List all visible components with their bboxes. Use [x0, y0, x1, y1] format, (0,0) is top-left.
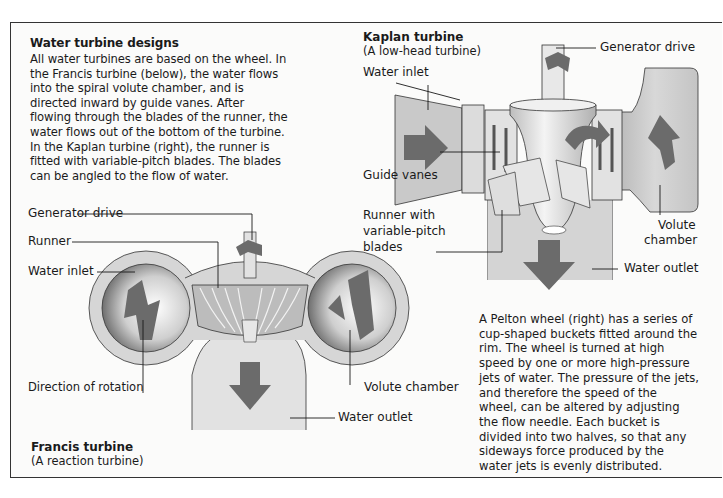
francis-label-generator-drive: Generator drive — [28, 206, 123, 220]
francis-label-direction-of-rotation: Direction of rotation — [28, 380, 143, 394]
kaplan-label-water-outlet: Water outlet — [624, 261, 698, 275]
intro-title: Water turbine designs — [30, 36, 179, 51]
kaplan-title: Kaplan turbine — [363, 30, 464, 44]
intro-line: water flows out of the bottom of the tur… — [30, 125, 288, 140]
kaplan-label-runner-1: Runner with — [363, 208, 435, 222]
intro-line: fitted with variable-pitch blades. The b… — [30, 154, 288, 169]
francis-label-water-outlet: Water outlet — [338, 410, 412, 424]
pelton-line: rim. The wheel is turned at high — [479, 341, 699, 356]
francis-subtitle: (A reaction turbine) — [31, 454, 143, 468]
pelton-line: wheel, can be altered by adjusting — [479, 400, 699, 415]
kaplan-turbine-drawing — [395, 45, 698, 290]
pelton-line: the flow needle. Each bucket is — [479, 415, 699, 430]
kaplan-label-guide-vanes: Guide vanes — [363, 168, 438, 182]
francis-label-water-inlet: Water inlet — [28, 264, 94, 278]
francis-label-runner: Runner — [28, 234, 71, 248]
intro-line: directed inward by guide vanes. After — [30, 96, 288, 111]
pelton-line: cup-shaped buckets fitted around the — [479, 327, 699, 342]
intro-line: the Francis turbine (below), the water f… — [30, 67, 288, 82]
kaplan-label-water-inlet: Water inlet — [363, 65, 429, 79]
pelton-paragraph: A Pelton wheel (right) has a series of c… — [479, 312, 699, 474]
francis-label-volute-chamber: Volute chamber — [364, 380, 459, 394]
pelton-line: speed by one or more high-pressure — [479, 356, 699, 371]
intro-line: All water turbines are based on the whee… — [30, 52, 288, 67]
intro-paragraph: All water turbines are based on the whee… — [30, 52, 288, 183]
kaplan-label-runner-2: variable-pitch — [363, 224, 446, 238]
kaplan-label-generator-drive: Generator drive — [600, 40, 695, 54]
kaplan-label-volute-2: chamber — [644, 233, 697, 247]
intro-line: In the Kaplan turbine (right), the runne… — [30, 140, 288, 155]
pelton-line: jets of water. The pressure of the jets, — [479, 371, 699, 386]
pelton-line: and therefore the speed of the — [479, 386, 699, 401]
intro-line: flowing through the blades of the runner… — [30, 110, 288, 125]
pelton-line: A Pelton wheel (right) has a series of — [479, 312, 699, 327]
pelton-line: water jets is evenly distributed. — [479, 459, 699, 474]
kaplan-label-runner-3: blades — [363, 240, 403, 254]
francis-title: Francis turbine — [31, 440, 133, 454]
intro-line: can be angled to the flow of water. — [30, 169, 288, 184]
intro-line: into the spiral volute chamber, and is — [30, 81, 288, 96]
francis-shaft — [244, 232, 256, 278]
pelton-line: sideways force produced by the — [479, 444, 699, 459]
francis-turbine-drawing — [89, 232, 409, 430]
kaplan-label-volute-1: Volute — [658, 218, 696, 232]
kaplan-subtitle: (A low-head turbine) — [363, 44, 481, 58]
pelton-line: divided into two halves, so that any — [479, 430, 699, 445]
